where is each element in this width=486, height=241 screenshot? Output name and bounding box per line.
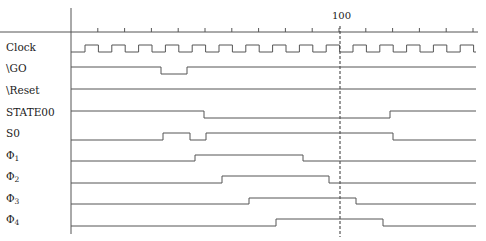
waveform-state00 <box>71 111 476 118</box>
signal-label: Clock <box>6 41 36 53</box>
signal-label: \Reset <box>6 84 39 96</box>
waveform-φ1 <box>71 155 476 161</box>
signal-name: Φ <box>6 213 15 225</box>
signal-label: Φ1 <box>6 149 19 161</box>
signal-name: STATE00 <box>6 106 55 118</box>
waveform-canvas <box>0 0 486 241</box>
signal-name: \Reset <box>6 84 39 96</box>
waveform-s0 <box>71 133 476 140</box>
waveform-go <box>71 67 476 74</box>
waveform-φ4 <box>71 219 476 226</box>
signal-label: Φ2 <box>6 170 19 182</box>
signal-subscript: 4 <box>15 218 20 227</box>
signal-label: Φ3 <box>6 192 19 204</box>
signal-name: \GO <box>6 62 27 74</box>
signal-name: Φ <box>6 192 15 204</box>
signal-label: Φ4 <box>6 213 19 225</box>
signal-label: \GO <box>6 62 27 74</box>
waveform-φ2 <box>71 176 476 183</box>
time-marker-label: 100 <box>332 10 351 21</box>
signal-name: S0 <box>6 127 20 139</box>
waveform-clock <box>71 45 476 52</box>
signal-name: Clock <box>6 41 36 53</box>
waveform-φ3 <box>71 198 476 204</box>
signal-label: S0 <box>6 127 20 139</box>
signal-label: STATE00 <box>6 106 55 118</box>
signal-name: Φ <box>6 170 15 182</box>
timing-diagram: 100 Clock\GO\ResetSTATE00S0Φ1Φ2Φ3Φ4 <box>0 0 486 241</box>
signal-subscript: 1 <box>15 154 20 163</box>
signal-subscript: 3 <box>15 197 20 206</box>
signal-name: Φ <box>6 149 15 161</box>
signal-subscript: 2 <box>15 175 20 184</box>
